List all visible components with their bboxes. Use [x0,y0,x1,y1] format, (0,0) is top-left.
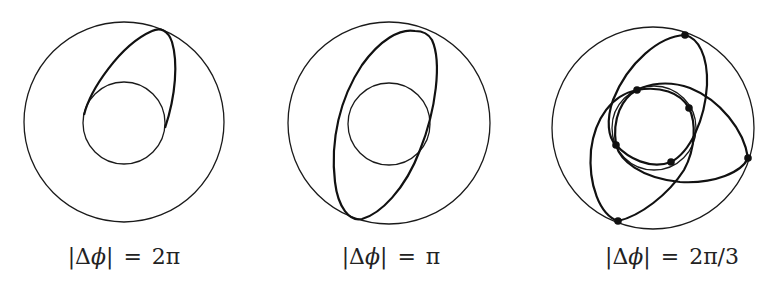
phi-symbol: ϕ [628,244,643,269]
contact-dot [612,141,620,149]
orbit-loop-c [591,89,694,221]
abs-bar-open: | [342,244,349,269]
abs-bar-close: | [106,244,113,269]
delta-symbol: Δ [612,244,628,269]
figure: |Δϕ|=2π |Δϕ|=π |Δϕ|=2π/3 [0,0,779,283]
label-value: 2π/3 [689,244,739,269]
panel-label-pi: |Δϕ|=π [316,240,466,274]
phi-symbol: ϕ [365,244,380,269]
panel-label-2pi-3: |Δϕ|=2π/3 [582,240,762,274]
contact-dot [681,31,689,39]
label-value: 2π [152,244,180,269]
inner-circle [83,82,165,164]
orbit-loop [84,29,175,128]
contact-dot [667,158,675,166]
panel-2pi-3-drawing [552,27,754,229]
panel-label-2pi: |Δϕ|=2π [44,240,204,274]
equals-sign: = [123,244,141,269]
contact-dot [685,104,693,112]
outer-circle [288,22,490,224]
label-value: π [426,244,440,269]
delta-symbol: Δ [349,244,365,269]
abs-bar-open: | [68,244,75,269]
contact-dot [614,217,622,225]
abs-bar-close: | [643,244,650,269]
panel-2pi-drawing [24,22,224,222]
outer-circle [552,27,754,229]
abs-bar-close: | [380,244,387,269]
inner-circle [348,83,430,165]
equals-sign: = [661,244,679,269]
orbit-loop [334,31,437,220]
panel-pi-drawing [288,22,490,224]
contact-dot [633,86,641,94]
contact-dot [744,154,752,162]
delta-symbol: Δ [75,244,91,269]
equals-sign: = [397,244,415,269]
inner-circle [612,86,696,170]
phi-symbol: ϕ [91,244,106,269]
